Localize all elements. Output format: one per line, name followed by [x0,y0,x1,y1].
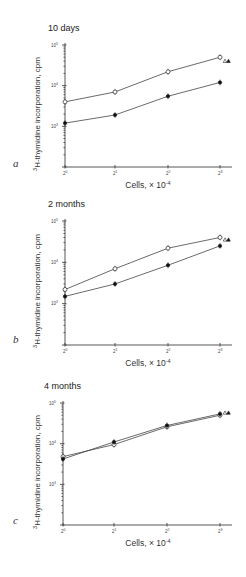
x-tick-label: 20 [63,170,68,176]
y-tick-label: 105 [51,218,58,224]
filled-circle-marker [112,440,115,443]
open-circle-marker [218,55,222,59]
filled-triangle-marker [227,59,231,62]
panel-title: 4 months [44,381,82,391]
filled-circle-marker [63,295,66,298]
y-tick-label: 103 [49,481,56,487]
open-circle-marker [218,235,222,239]
series-line [65,246,220,297]
panel-title: 2 months [48,199,86,209]
filled-circle-marker [218,412,221,415]
x-tick-label: 21 [113,348,118,354]
y-axis-label: 3H-thymidine incorporation, cpm [32,415,42,529]
filled-circle-marker [218,81,221,84]
y-tick-label: 105 [51,42,58,48]
y-tick-label: 104 [51,259,58,265]
y-tick-label: 104 [49,440,56,446]
x-tick-label: 23 [218,170,223,176]
filled-triangle-marker [227,411,231,414]
x-tick-label: 22 [165,528,170,534]
y-tick-label: 103 [51,300,58,306]
x-axis-label: Cells, × 10-4 [125,358,170,368]
filled-circle-marker [166,95,169,98]
y-axis-label: 3H-thymidine incorporation, cpm [32,234,42,348]
series-line [63,415,220,456]
panel-c: 4 monthsc3H-thymidine incorporation, cpm… [13,381,232,548]
filled-circle-marker [165,424,168,427]
panel-letter: c [13,514,18,526]
filled-circle-marker [166,264,169,267]
x-tick-label: 23 [218,348,223,354]
x-tick-label: 23 [218,528,223,534]
panel-letter: a [13,157,19,169]
filled-circle-marker [113,282,116,285]
filled-circle-marker [113,113,116,116]
x-tick-label: 21 [113,170,118,176]
y-axis-label: 3H-thymidine incorporation, cpm [32,57,42,171]
filled-circle-marker [218,244,221,247]
x-tick-label: 22 [166,170,171,176]
x-axis-label: Cells, × 10-4 [125,538,170,548]
x-tick-label: 20 [61,528,66,534]
filled-circle-marker [63,121,66,124]
open-circle-marker [166,70,170,74]
y-tick-label: 104 [51,82,58,88]
filled-circle-marker [61,457,64,460]
open-circle-marker [113,90,117,94]
figure: 10 daysa3H-thymidine incorporation, cpm1… [0,0,246,577]
open-triangle-marker [223,411,227,414]
panel-title: 10 days [48,23,80,33]
open-circle-marker [166,246,170,250]
panel-letter: b [13,333,19,345]
panel-b: 2 monthsb3H-thymidine incorporation, cpm… [13,199,232,368]
open-triangle-marker [223,238,227,241]
filled-triangle-marker [227,238,231,241]
open-circle-marker [113,267,117,271]
x-axis-label: Cells, × 10-4 [125,180,170,190]
panel-a: 10 daysa3H-thymidine incorporation, cpm1… [13,23,232,190]
open-circle-marker [63,288,67,292]
x-tick-label: 20 [63,348,68,354]
series-line [65,82,220,123]
y-tick-label: 103 [51,123,58,129]
y-tick-label: 105 [49,400,56,406]
x-tick-label: 21 [112,528,117,534]
series-line [65,57,220,102]
open-triangle-marker [223,59,227,62]
open-circle-marker [63,100,67,104]
x-tick-label: 22 [166,348,171,354]
series-line [65,237,220,289]
